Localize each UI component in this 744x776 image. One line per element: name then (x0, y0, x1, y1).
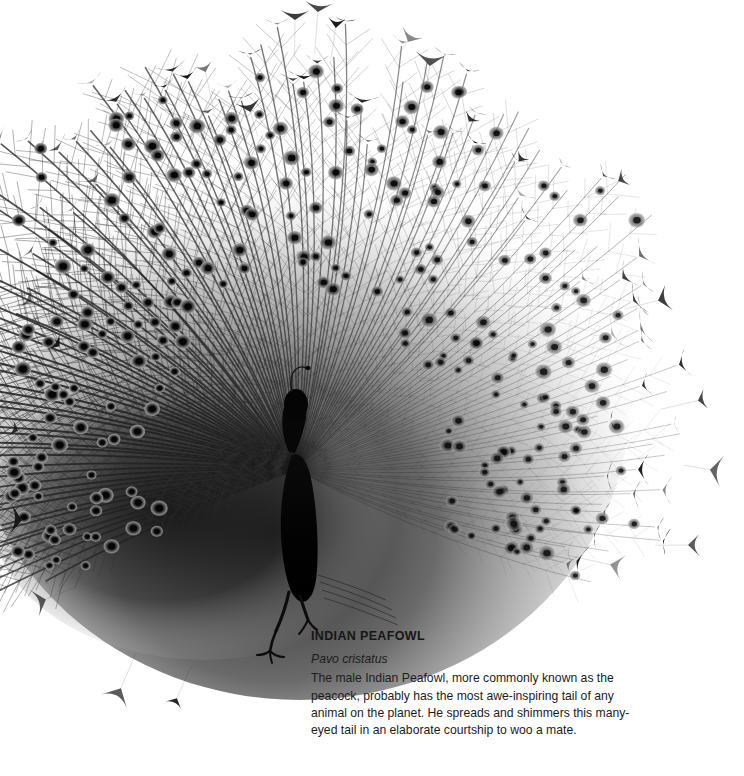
caption-title: INDIAN PEAFOWL (311, 630, 641, 644)
page-root: INDIAN PEAFOWL Pavo cristatus The male I… (0, 0, 744, 776)
caption-body-text: The male Indian Peafowl, more commonly k… (311, 670, 641, 739)
caption-scientific-name: Pavo cristatus (311, 653, 641, 666)
caption-block: INDIAN PEAFOWL Pavo cristatus The male I… (311, 630, 641, 739)
